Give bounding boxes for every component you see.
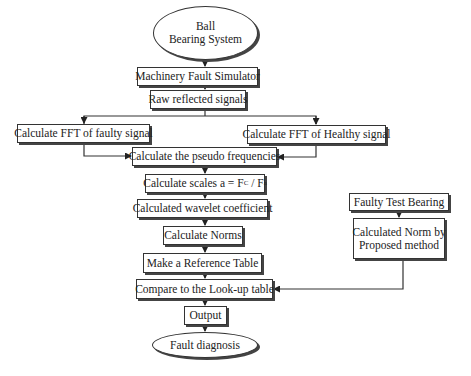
machinery-fault-simulator-box: Machinery Fault Simulator	[137, 67, 258, 86]
fft-healthy-box: Calculate FFT of Healthy signal	[247, 125, 386, 144]
norm-proposed-method-box: Calculated Norm by Proposed method	[353, 218, 445, 259]
raw-signals-box: Raw reflected signals	[150, 90, 246, 109]
pseudo-frequencies-box: Calculate the pseudo frequencies	[132, 147, 277, 166]
output-box: Output	[184, 306, 227, 325]
compare-lookup-box: Compare to the Look-up table	[136, 279, 273, 299]
wavelet-coefficient-box: Calculated wavelet coefficient	[137, 199, 268, 218]
scales-mid: / F	[251, 177, 263, 190]
fft-faulty-box: Calculate FFT of faulty signal	[17, 124, 150, 143]
norm-method-line1: Calculated Norm by	[352, 226, 445, 239]
end-node-label: Fault diagnosis	[170, 339, 240, 352]
scales-prefix: Calculate scales a = F	[143, 177, 243, 190]
reference-table-box: Make a Reference Table	[143, 253, 262, 273]
faulty-test-bearing-box: Faulty Test Bearing	[349, 193, 449, 211]
start-node-ball-bearing-system: Ball Bearing System	[153, 6, 258, 60]
norm-method-line2: Proposed method	[359, 239, 439, 252]
scales-sub-a: a	[264, 177, 267, 190]
calculate-scales-box: Calculate scales a = FC / Fa	[145, 174, 265, 193]
start-node-line2: Bearing System	[169, 33, 242, 46]
scales-sub-c: C	[244, 177, 249, 190]
start-node-line1: Ball	[196, 20, 215, 33]
end-node-fault-diagnosis: Fault diagnosis	[152, 332, 258, 358]
calculate-norms-box: Calculate Norms	[163, 226, 243, 245]
